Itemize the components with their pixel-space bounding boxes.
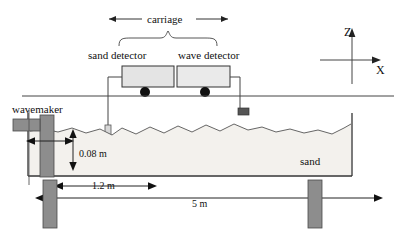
- support-legs: [43, 180, 322, 228]
- sand-label: sand: [300, 156, 320, 167]
- z-axis-label: Z: [344, 26, 351, 38]
- sand-detector-label: sand detector: [88, 50, 146, 61]
- wavemaker-paddle: [40, 115, 54, 177]
- instrument-carriage: [122, 66, 230, 97]
- short-span-label: 1.2 m: [92, 181, 115, 191]
- diagram-canvas: [0, 0, 402, 231]
- carriage-brace: [119, 31, 217, 46]
- support-leg-left: [43, 180, 57, 228]
- carriage-label: carriage: [147, 14, 182, 25]
- cable-connector-box: [238, 108, 249, 115]
- wavemaker-label: wavemaker: [12, 104, 63, 115]
- water-depth-label: 0.08 m: [79, 149, 107, 159]
- long-span-label: 5 m: [192, 199, 207, 209]
- wavemaker-arm: [13, 119, 40, 131]
- support-leg-right: [308, 180, 322, 228]
- wave-detector-label: wave detector: [178, 50, 239, 61]
- long-span-dimension: [35, 194, 383, 202]
- wave-flume-diagram: carriage sand detector wave detector wav…: [0, 0, 402, 231]
- x-axis-label: X: [376, 64, 385, 76]
